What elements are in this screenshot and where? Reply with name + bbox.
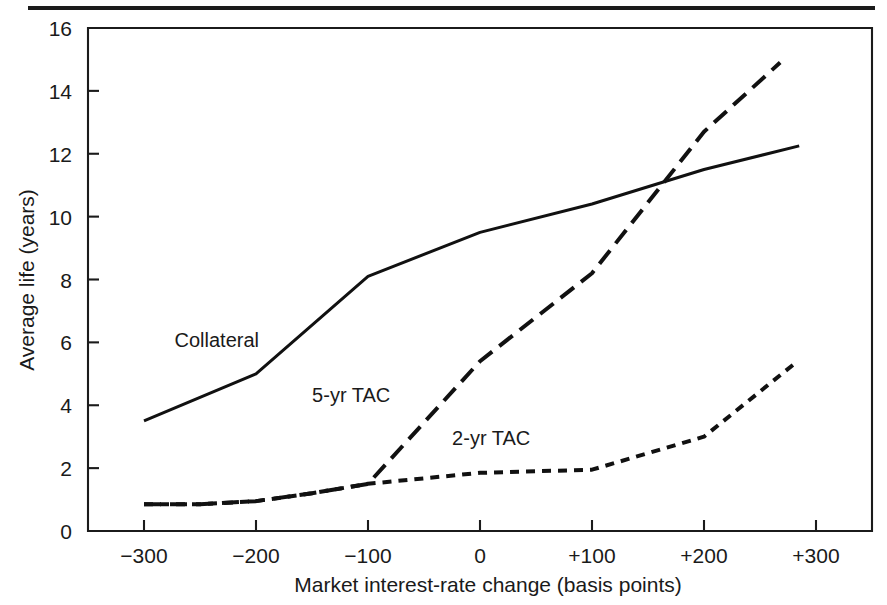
x-tick-label: −200 (232, 544, 279, 567)
y-tick-label: 6 (60, 331, 72, 354)
plot-frame (88, 28, 872, 531)
series-line-collateral (144, 146, 799, 421)
average-life-line-chart: 0246810121416 −300−200−1000+100+200+300 … (0, 0, 887, 605)
series-label-2-yr-tac: 2-yr TAC (452, 427, 530, 449)
y-tick-label: 16 (49, 17, 72, 40)
y-axis-ticks: 0246810121416 (49, 17, 99, 543)
x-axis-title: Market interest-rate change (basis point… (294, 573, 682, 596)
top-rule (28, 6, 875, 10)
y-tick-label: 14 (49, 80, 73, 103)
figure-container: 0246810121416 −300−200−1000+100+200+300 … (0, 0, 887, 605)
y-tick-label: 8 (60, 269, 72, 292)
y-tick-label: 0 (60, 520, 72, 543)
series-label-collateral: Collateral (175, 329, 259, 351)
y-tick-label: 2 (60, 457, 72, 480)
x-tick-label: −300 (120, 544, 167, 567)
series-labels: Collateral5-yr TAC2-yr TAC (175, 329, 531, 448)
x-tick-label: +100 (568, 544, 615, 567)
x-tick-label: +300 (792, 544, 839, 567)
y-tick-label: 4 (60, 394, 72, 417)
y-tick-label: 12 (49, 143, 72, 166)
x-tick-label: −100 (344, 544, 391, 567)
series-label-5-yr-tac: 5-yr TAC (312, 384, 390, 406)
x-tick-label: 0 (474, 544, 486, 567)
y-tick-label: 10 (49, 206, 72, 229)
x-axis-ticks: −300−200−1000+100+200+300 (120, 520, 839, 567)
x-tick-label: +200 (680, 544, 727, 567)
y-axis-title: Average life (years) (15, 189, 38, 371)
